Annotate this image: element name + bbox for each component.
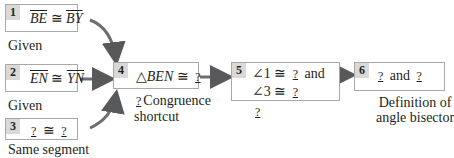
statement: ? and ? bbox=[375, 68, 425, 84]
step-4-reason: ?Congruence shortcut bbox=[134, 93, 211, 124]
blank: ? bbox=[290, 67, 301, 82]
step-number: 6 bbox=[355, 63, 369, 78]
blank: ? bbox=[290, 85, 301, 100]
step-1-box: 1 BE ≅ BY bbox=[5, 4, 78, 32]
step-4-box: 4 △BEN ≅ ? bbox=[113, 62, 199, 89]
blank: ? bbox=[192, 70, 203, 85]
blank: ? bbox=[28, 124, 39, 139]
step-number: 1 bbox=[6, 5, 20, 20]
step-number: 3 bbox=[6, 119, 20, 134]
blank: ? bbox=[375, 69, 386, 84]
step-number: 5 bbox=[232, 63, 246, 78]
statement: ? ≅ ? bbox=[28, 122, 70, 139]
step-1-reason: Given bbox=[8, 38, 42, 53]
step-6-box: 6 ? and ? bbox=[354, 62, 445, 91]
step-2-reason: Given bbox=[8, 98, 42, 113]
statement: EN ≅ YN bbox=[30, 70, 84, 87]
step-3-reason: Same segment bbox=[8, 142, 89, 157]
statement-line-2: ∠3 ≅ ? bbox=[252, 83, 301, 100]
blank: ? bbox=[134, 94, 143, 109]
step-5-reason: ? bbox=[252, 104, 263, 120]
step-2-box: 2 EN ≅ YN bbox=[5, 64, 78, 92]
blank: ? bbox=[58, 124, 69, 139]
statement: △BEN ≅ ? bbox=[136, 68, 204, 85]
step-3-box: 3 ? ≅ ? bbox=[5, 118, 78, 140]
step-5-box: 5 ∠1 ≅ ? and ∠3 ≅ ? bbox=[231, 62, 340, 101]
blank: ? bbox=[252, 105, 263, 120]
statement-line-1: ∠1 ≅ ? and bbox=[252, 65, 325, 82]
blank: ? bbox=[414, 69, 425, 84]
step-6-reason: Definition of angle bisector bbox=[376, 95, 454, 125]
statement: BE ≅ BY bbox=[30, 10, 82, 27]
step-number: 4 bbox=[114, 63, 128, 78]
step-number: 2 bbox=[6, 65, 20, 80]
